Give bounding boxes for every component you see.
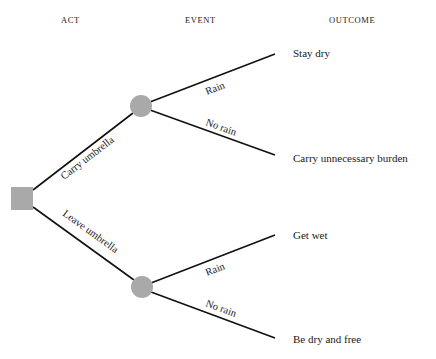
diagram-canvas: ACT EVENT OUTCOME Carry umbrella Leave u… bbox=[0, 0, 436, 359]
decision-tree-diagram: ACT EVENT OUTCOME Carry umbrella Leave u… bbox=[0, 0, 436, 359]
header-outcome: OUTCOME bbox=[329, 15, 375, 25]
outcome-get-wet: Get wet bbox=[293, 229, 328, 241]
label-carry-rain: Rain bbox=[204, 79, 227, 97]
decision-node-square bbox=[11, 187, 33, 210]
label-carry-no-rain: No rain bbox=[204, 117, 238, 138]
edge-leave-umbrella bbox=[33, 207, 134, 280]
chance-node-leave bbox=[131, 276, 153, 298]
label-leave-rain: Rain bbox=[204, 260, 227, 278]
header-act: ACT bbox=[61, 15, 80, 25]
outcome-be-dry-and-free: Be dry and free bbox=[293, 333, 361, 345]
edge-carry-no-rain bbox=[150, 110, 275, 155]
chance-node-carry bbox=[130, 95, 152, 117]
label-leave-no-rain: No rain bbox=[204, 298, 238, 320]
outcome-carry-unnecessary-burden: Carry unnecessary burden bbox=[293, 152, 408, 164]
label-carry-umbrella: Carry umbrella bbox=[59, 134, 117, 182]
edge-carry-umbrella bbox=[33, 113, 133, 190]
outcome-stay-dry: Stay dry bbox=[293, 47, 330, 59]
header-event: EVENT bbox=[185, 15, 216, 25]
